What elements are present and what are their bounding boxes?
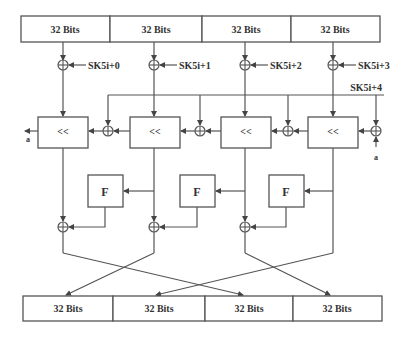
xor-icon — [328, 60, 338, 70]
shift-label-2: << — [240, 126, 252, 137]
xor-icon — [149, 60, 159, 70]
f-label-2: F — [282, 185, 289, 199]
subkey-label-3: SK5i+3 — [358, 60, 390, 71]
xor-icon — [283, 126, 293, 136]
xor-icon — [58, 222, 68, 232]
xor-icon — [58, 60, 68, 70]
shift-label-3: << — [327, 126, 339, 137]
feedback-in-label: a — [374, 153, 378, 162]
input-blocks: 32 Bits 32 Bits 32 Bits 32 Bits — [21, 16, 380, 42]
output-block-3-label: 32 Bits — [322, 303, 351, 314]
subkey-label-1: SK5i+1 — [179, 60, 211, 71]
subkey-label-0: SK5i+0 — [88, 60, 120, 71]
output-block-2-label: 32 Bits — [234, 303, 263, 314]
cipher-round-diagram: 32 Bits 32 Bits 32 Bits 32 Bits — [0, 0, 410, 337]
shift-label-0: << — [57, 126, 69, 137]
f-row: F F F — [88, 175, 333, 207]
xor-icon — [195, 126, 205, 136]
xor-icon — [103, 126, 113, 136]
f-label-1: F — [193, 185, 200, 199]
input-block-3-label: 32 Bits — [320, 24, 349, 35]
xor-icon — [240, 222, 250, 232]
input-block-1-label: 32 Bits — [141, 24, 170, 35]
output-block-0-label: 32 Bits — [53, 303, 82, 314]
subkey-label-4: SK5i+4 — [350, 82, 382, 93]
output-blocks: 32 Bits 32 Bits 32 Bits 32 Bits — [23, 296, 382, 321]
output-block-1-label: 32 Bits — [144, 303, 173, 314]
subkey-label-2: SK5i+2 — [270, 60, 302, 71]
xor-icon — [149, 222, 159, 232]
input-block-0-label: 32 Bits — [50, 24, 79, 35]
xor-icon — [240, 60, 250, 70]
shift-row: << << << << a a — [25, 117, 381, 162]
input-wires — [63, 42, 333, 60]
input-block-2-label: 32 Bits — [231, 24, 260, 35]
f-label-0: F — [101, 185, 108, 199]
f-xor-row — [58, 207, 286, 253]
subkey-xor-row: SK5i+0 SK5i+1 SK5i+2 SK5i+3 — [58, 60, 390, 71]
shift-label-1: << — [149, 126, 161, 137]
to-shift-wires — [63, 70, 333, 116]
xor-icon — [371, 126, 381, 136]
feedback-out-label: a — [26, 135, 30, 144]
permutation-wires — [63, 253, 333, 295]
